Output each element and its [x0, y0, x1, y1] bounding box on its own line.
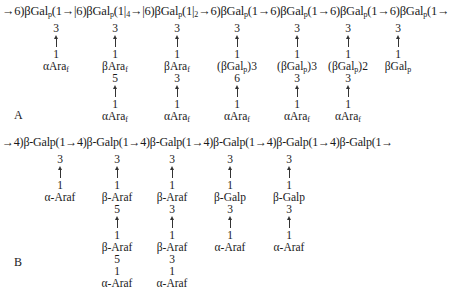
residue: α-Araf	[142, 277, 202, 289]
panel-b-branch-5: 3 1 β-Galp 3 1 α-Araf	[259, 153, 319, 253]
panel-b-backbone: →4)β-Galp(1→4)β-Galp(1→4)β-Galp(1→4)β-Ga…	[2, 135, 393, 150]
linkage-position: 3	[142, 153, 202, 165]
linkage-position: 1	[259, 229, 319, 241]
linkage-position: 1	[200, 179, 260, 191]
linkage-position: 3	[318, 72, 378, 84]
panel-b-branch-2: 3 1 β-Araf 5 1 β-Araf 5 1 α-Araf	[87, 153, 147, 289]
up-arrow-icon	[200, 165, 260, 179]
residue: α-Araf	[200, 241, 260, 253]
backbone-seg: →|6)βGal	[130, 4, 178, 18]
panel-a-branch-3: 3 1 βAraf 3 1 αAraf	[147, 22, 207, 122]
linkage-position: 3	[142, 203, 202, 215]
linkage-position: 3	[207, 22, 267, 34]
linkage-position: 3	[85, 22, 145, 34]
linkage-position: 3	[259, 203, 319, 215]
linkage-position: 3	[200, 153, 260, 165]
backbone-seg: (1→6)βGal	[308, 4, 364, 18]
panel-b-label: B	[14, 255, 22, 270]
panel-b-branch-4: 3 1 β-Galp 3 1 α-Araf	[200, 153, 260, 253]
backbone-seg: (1→|6)βGal	[52, 4, 110, 18]
residue: αAraf	[207, 110, 267, 122]
linkage-position: 1	[87, 265, 147, 277]
panel-a-branch-1: 3 1 αAraf	[26, 22, 86, 72]
residue: αAraf	[147, 110, 207, 122]
panel-a-branch-7: 3 1 βGalp	[368, 22, 428, 72]
residue: β-Araf	[142, 191, 202, 203]
linkage-position: 3	[26, 22, 86, 34]
backbone-seg: (1→	[427, 4, 449, 18]
backbone-seg: →6)βGal	[2, 4, 48, 18]
linkage-position: 1	[207, 98, 267, 110]
linkage-position: 6	[207, 72, 267, 84]
linkage-position: 1	[142, 179, 202, 191]
backbone-seg: (1|	[114, 4, 126, 18]
linkage-position: 1	[200, 229, 260, 241]
panel-a-branch-4: 3 1 (βGalp)3 6 1 αAraf	[207, 22, 267, 122]
linkage-position: 1	[26, 48, 86, 60]
residue: βGalp	[368, 60, 428, 72]
linkage-position: 1	[87, 179, 147, 191]
linkage-position: 1	[207, 48, 267, 60]
residue: β-Araf	[87, 241, 147, 253]
up-arrow-icon	[259, 165, 319, 179]
up-arrow-icon	[207, 84, 267, 98]
up-arrow-icon	[142, 165, 202, 179]
linkage-position: 3	[147, 72, 207, 84]
up-arrow-icon	[147, 34, 207, 48]
panel-b-branch-3: 3 1 β-Araf 3 1 β-Araf 3 1 α-Araf	[142, 153, 202, 289]
linkage-position: 5	[87, 203, 147, 215]
residue: α-Araf	[259, 241, 319, 253]
residue: αAraf	[26, 60, 86, 72]
linkage-position: 1	[87, 229, 147, 241]
backbone-seg: (1|	[182, 4, 194, 18]
panel-a-backbone: →6)βGalp(1→|6)βGalp(1|4→|6)βGalp(1|2→6)β…	[2, 4, 449, 19]
residue: β-Araf	[142, 241, 202, 253]
panel-a-branch-2: 3 1 βAraf 5 1 αAraf	[85, 22, 145, 122]
residue: α-Araf	[30, 191, 90, 203]
panel-b-branch-1: 3 1 α-Araf	[30, 153, 90, 203]
residue: (βGalp)3	[207, 60, 267, 72]
up-arrow-icon	[142, 215, 202, 229]
panel-a-label: A	[14, 108, 23, 123]
residue: αAraf	[318, 110, 378, 122]
linkage-position: 1	[368, 48, 428, 60]
linkage-position: 1	[85, 48, 145, 60]
linkage-position: 3	[368, 22, 428, 34]
residue: βAraf	[85, 60, 145, 72]
backbone-seg: (1→6)βGal	[248, 4, 304, 18]
linkage-position: 1	[259, 179, 319, 191]
up-arrow-icon	[147, 84, 207, 98]
residue: β-Galp	[200, 191, 260, 203]
up-arrow-icon	[85, 84, 145, 98]
linkage-position: 1	[30, 179, 90, 191]
residue: β-Araf	[87, 191, 147, 203]
residue: βAraf	[147, 60, 207, 72]
linkage-position: 3	[30, 153, 90, 165]
up-arrow-icon	[26, 34, 86, 48]
linkage-position: 1	[142, 229, 202, 241]
residue: β-Galp	[259, 191, 319, 203]
linkage-position: 1	[318, 98, 378, 110]
up-arrow-icon	[207, 34, 267, 48]
linkage-position: 1	[142, 265, 202, 277]
linkage-position: 1	[147, 98, 207, 110]
up-arrow-icon	[87, 215, 147, 229]
linkage-position: 1	[147, 48, 207, 60]
linkage-position: 1	[85, 98, 145, 110]
linkage-position: 5	[87, 253, 147, 265]
linkage-position: 3	[87, 153, 147, 165]
backbone-seg: →6)βGal	[198, 4, 244, 18]
up-arrow-icon	[368, 34, 428, 48]
up-arrow-icon	[30, 165, 90, 179]
linkage-position: 5	[85, 72, 145, 84]
backbone-seg: (1→6)βGal	[367, 4, 423, 18]
up-arrow-icon	[200, 215, 260, 229]
residue: α-Araf	[87, 277, 147, 289]
linkage-position: 3	[147, 22, 207, 34]
linkage-position: 3	[200, 203, 260, 215]
residue: αAraf	[85, 110, 145, 122]
up-arrow-icon	[87, 165, 147, 179]
up-arrow-icon	[85, 34, 145, 48]
linkage-position: 3	[259, 153, 319, 165]
up-arrow-icon	[318, 84, 378, 98]
